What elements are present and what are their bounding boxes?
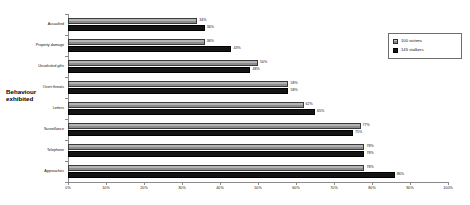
y-axis-tick [65, 98, 68, 99]
y-axis-title-line2: exhibited [6, 95, 62, 102]
bar-value-label: 36% [207, 40, 214, 44]
x-axis-tick [68, 182, 69, 185]
bar-stalkers [68, 172, 395, 178]
y-axis-tick [65, 14, 68, 15]
bar-value-label: 48% [252, 68, 259, 72]
x-axis-tick [182, 182, 183, 185]
x-axis-tick-label: 10% [102, 187, 109, 191]
bar-stalkers [68, 67, 250, 73]
y-axis-tick [65, 140, 68, 141]
x-axis-tick [144, 182, 145, 185]
bar-value-label: 58% [290, 89, 297, 93]
bar-value-label: 34% [199, 19, 206, 23]
x-axis-tick-label: 60% [292, 187, 299, 191]
x-axis-tick [106, 182, 107, 185]
bar-group: Approaches78%86% [68, 165, 448, 178]
bar-row: 36% [68, 25, 448, 31]
bar-victims [68, 81, 288, 87]
bar-victims [68, 39, 205, 45]
bar-row: 77% [68, 123, 448, 129]
y-axis-category-label: Letters [53, 107, 64, 111]
y-axis-tick [65, 119, 68, 120]
bar-row: 48% [68, 67, 448, 73]
legend-label-stalkers: 145 stalkers [401, 48, 424, 52]
bar-value-label: 62% [306, 103, 313, 107]
y-axis-category-label: Surveillance [44, 128, 64, 132]
x-axis-tick-label: 90% [406, 187, 413, 191]
bar-row: 65% [68, 109, 448, 115]
y-axis-category-label: Approaches [44, 170, 64, 174]
y-axis-tick [65, 77, 68, 78]
x-axis-tick [258, 182, 259, 185]
legend-entry-victims: 100 victims [393, 37, 461, 46]
bar-value-label: 65% [317, 110, 324, 114]
bar-row: 86% [68, 172, 448, 178]
y-axis-category-label: Telephone [47, 149, 64, 153]
bar-row: 50% [68, 60, 448, 66]
x-axis-tick-label: 70% [330, 187, 337, 191]
x-axis-tick [448, 182, 449, 185]
bar-row: 34% [68, 18, 448, 24]
x-axis-tick [220, 182, 221, 185]
bar-stalkers [68, 109, 315, 115]
y-axis-category-label: Property damage [36, 44, 64, 48]
bar-value-label: 77% [363, 124, 370, 128]
x-axis-tick-label: 80% [368, 187, 375, 191]
x-axis-tick [372, 182, 373, 185]
bar-victims [68, 123, 361, 129]
bar-victims [68, 102, 304, 108]
bar-row: 78% [68, 165, 448, 171]
legend-swatch-victims-icon [393, 39, 398, 44]
bar-victims [68, 60, 258, 66]
bar-stalkers [68, 130, 353, 136]
bar-value-label: 78% [366, 152, 373, 156]
x-axis-tick-label: 100% [443, 187, 452, 191]
x-axis-tick [410, 182, 411, 185]
y-axis-title-line1: Behaviour [6, 88, 62, 95]
x-axis-tick-label: 20% [140, 187, 147, 191]
bar-victims [68, 18, 197, 24]
bar-row: 78% [68, 151, 448, 157]
bar-group: Unsolicited gifts50%48% [68, 60, 448, 73]
bar-value-label: 78% [366, 166, 373, 170]
x-axis-tick-label: 30% [178, 187, 185, 191]
bar-victims [68, 165, 364, 171]
x-axis-tick-label: 40% [216, 187, 223, 191]
bar-group: Telephone78%78% [68, 144, 448, 157]
bar-value-label: 58% [290, 82, 297, 86]
x-axis-tick [296, 182, 297, 185]
y-axis-category-label: Unsolicited gifts [38, 65, 64, 69]
legend-entry-stalkers: 145 stalkers [393, 46, 461, 55]
chart-legend: 100 victims 145 stalkers [388, 33, 462, 59]
x-axis-tick-label: 0% [65, 187, 70, 191]
bar-value-label: 36% [207, 26, 214, 30]
bar-group: Assaulted34%36% [68, 18, 448, 31]
x-axis-tick-label: 50% [254, 187, 261, 191]
bar-stalkers [68, 151, 364, 157]
bar-row: 78% [68, 144, 448, 150]
bar-victims [68, 144, 364, 150]
bar-value-label: 86% [397, 173, 404, 177]
bar-row: 58% [68, 81, 448, 87]
y-axis-category-label: Assaulted [48, 23, 64, 27]
y-axis-tick [65, 56, 68, 57]
x-axis-tick [334, 182, 335, 185]
bar-value-label: 50% [260, 61, 267, 65]
legend-label-victims: 100 victims [401, 39, 422, 43]
bar-group: Surveillance77%75% [68, 123, 448, 136]
bar-stalkers [68, 88, 288, 94]
bar-stalkers [68, 25, 205, 31]
bar-value-label: 75% [355, 131, 362, 135]
bar-group: Letters62%65% [68, 102, 448, 115]
bar-group: Overt threats58%58% [68, 81, 448, 94]
bar-value-label: 43% [233, 47, 240, 51]
bar-row: 75% [68, 130, 448, 136]
legend-swatch-stalkers-icon [393, 48, 398, 53]
bar-row: 58% [68, 88, 448, 94]
bar-chart: Assaulted34%36%Property damage36%43%Unso… [0, 0, 470, 205]
bar-row: 62% [68, 102, 448, 108]
bar-stalkers [68, 46, 231, 52]
y-axis-title: Behaviour exhibited [6, 88, 62, 102]
bar-value-label: 78% [366, 145, 373, 149]
y-axis-tick [65, 161, 68, 162]
